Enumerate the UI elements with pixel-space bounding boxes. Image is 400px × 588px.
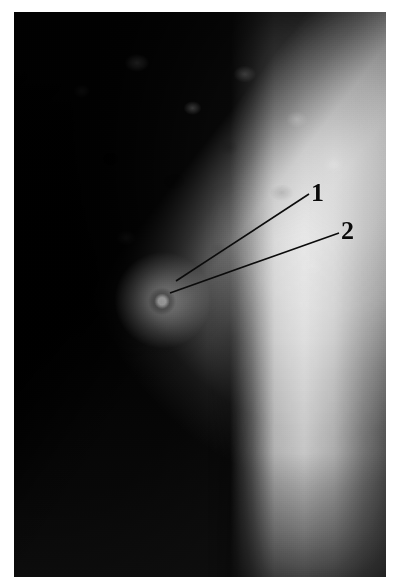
callout-label-1: 1	[311, 180, 324, 206]
callout-label-2: 2	[341, 218, 354, 244]
figure-root: 1 2	[0, 0, 400, 588]
film-grain	[14, 12, 386, 577]
radiograph-plate	[14, 12, 386, 577]
